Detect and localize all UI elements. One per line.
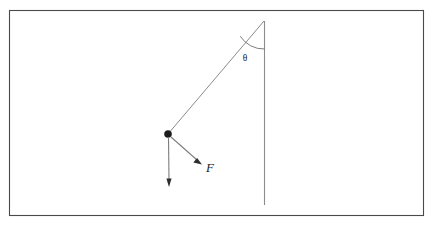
figure-canvas: θ F <box>0 0 434 228</box>
force-label-F: F <box>205 160 215 175</box>
pendulum-force-diagram: θ F <box>0 0 434 228</box>
angle-label-theta: θ <box>243 53 248 63</box>
weight-vector-shaft <box>169 137 170 180</box>
pendulum-bob <box>164 130 171 137</box>
figure-border <box>10 11 424 216</box>
